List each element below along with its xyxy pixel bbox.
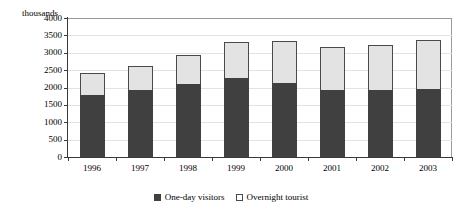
stacked-bar[interactable] — [368, 45, 393, 157]
chart-legend: One-day visitorsOvernight tourist — [0, 192, 462, 202]
y-axis-tick-label: 4000 — [20, 14, 62, 23]
bar-slot — [404, 18, 452, 157]
x-axis-tick-label: 2000 — [260, 163, 308, 174]
bar-segment-one-day-visitors[interactable] — [128, 90, 153, 157]
x-axis-tick-mark — [356, 157, 357, 161]
bar-segment-one-day-visitors[interactable] — [416, 89, 441, 157]
x-axis-tick-mark — [308, 157, 309, 161]
stacked-bar[interactable] — [224, 42, 249, 157]
bar-segment-overnight-tourist[interactable] — [272, 41, 297, 82]
x-axis-tick-label: 1998 — [164, 163, 212, 174]
x-axis-tick-label: 1999 — [212, 163, 260, 174]
y-axis-tick-label: 500 — [20, 135, 62, 144]
bar-slot — [68, 18, 116, 157]
legend-label: Overnight tourist — [247, 192, 309, 202]
x-axis-tick-mark — [116, 157, 117, 161]
bar-segment-overnight-tourist[interactable] — [128, 66, 153, 90]
x-axis-tick-label: 1997 — [116, 163, 164, 174]
stacked-bar[interactable] — [320, 47, 345, 158]
bar-segment-overnight-tourist[interactable] — [320, 47, 345, 90]
x-axis-tick-mark — [260, 157, 261, 161]
legend-item[interactable]: Overnight tourist — [236, 192, 309, 202]
bar-segment-overnight-tourist[interactable] — [224, 42, 249, 78]
bar-slot — [116, 18, 164, 157]
y-axis-tick-label: 2000 — [20, 83, 62, 92]
x-axis-tick-mark — [404, 157, 405, 161]
y-axis-tick-label: 0 — [20, 153, 62, 162]
bar-segment-one-day-visitors[interactable] — [224, 78, 249, 157]
bar-segment-overnight-tourist[interactable] — [176, 55, 201, 83]
dark-square-icon — [154, 194, 161, 201]
x-axis-tick-label: 2003 — [404, 163, 452, 174]
light-square-icon — [236, 194, 243, 201]
stacked-bar[interactable] — [176, 55, 201, 157]
stacked-bar[interactable] — [128, 66, 153, 157]
bar-segment-overnight-tourist[interactable] — [80, 73, 105, 95]
y-axis-tick-label: 3000 — [20, 48, 62, 57]
legend-item[interactable]: One-day visitors — [154, 192, 225, 202]
stacked-bar[interactable] — [80, 73, 105, 157]
y-axis-tick-label: 1000 — [20, 118, 62, 127]
x-axis-tick-label: 2002 — [356, 163, 404, 174]
bar-segment-one-day-visitors[interactable] — [272, 83, 297, 157]
x-axis-tick-mark — [68, 157, 69, 161]
bar-segment-one-day-visitors[interactable] — [80, 95, 105, 157]
y-axis-tick-label: 1500 — [20, 100, 62, 109]
bar-segment-one-day-visitors[interactable] — [320, 90, 345, 157]
stacked-bar-chart: thousands 400035003000250020001500100050… — [0, 0, 462, 216]
bar-slot — [356, 18, 404, 157]
x-axis-labels-group: 19961997199819992000200120022003 — [68, 163, 452, 174]
bar-slot — [308, 18, 356, 157]
bar-segment-one-day-visitors[interactable] — [368, 90, 393, 157]
bars-group — [68, 18, 452, 157]
x-axis-tick-label: 1996 — [68, 163, 116, 174]
stacked-bar[interactable] — [416, 40, 441, 157]
y-axis-tick-label: 3500 — [20, 31, 62, 40]
x-axis-tick-mark — [164, 157, 165, 161]
bar-segment-overnight-tourist[interactable] — [368, 45, 393, 90]
bar-segment-overnight-tourist[interactable] — [416, 40, 441, 89]
bar-slot — [260, 18, 308, 157]
bar-slot — [164, 18, 212, 157]
bar-slot — [212, 18, 260, 157]
bar-segment-one-day-visitors[interactable] — [176, 84, 201, 157]
legend-label: One-day visitors — [165, 192, 225, 202]
stacked-bar[interactable] — [272, 41, 297, 157]
x-axis-tick-mark — [212, 157, 213, 161]
x-axis-tick-mark — [452, 157, 453, 161]
y-axis-tick-label: 2500 — [20, 66, 62, 75]
x-axis-tick-label: 2001 — [308, 163, 356, 174]
